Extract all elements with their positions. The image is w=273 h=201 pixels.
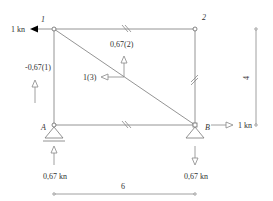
- support-b-icon: [186, 127, 204, 138]
- support-a-icon: [45, 127, 63, 138]
- dimension-height-label: 4: [243, 76, 251, 80]
- applied-force-label: 1 kn: [11, 26, 25, 34]
- node-2: [193, 27, 197, 31]
- member-3-force-label: 1(3): [83, 74, 96, 82]
- member-1-force-arrow-icon: [32, 80, 38, 103]
- reaction-b-label: 0,67 kn: [184, 173, 208, 181]
- member-1-force-label: -0,67(1): [25, 64, 51, 72]
- node-2-label: 2: [202, 14, 206, 22]
- node-1: [52, 27, 56, 31]
- reaction-b-horizontal-label: 1 kn: [238, 122, 252, 130]
- reaction-a-arrow-icon: [51, 146, 57, 165]
- reaction-a-label: 0,67 kn: [43, 173, 67, 181]
- member-2-force-label: 0,67(2): [110, 41, 133, 49]
- member-3-force-arrow-icon: [101, 74, 124, 80]
- reaction-b-arrow-icon: [192, 146, 198, 165]
- tick-marks: [122, 25, 198, 128]
- reaction-b-horizontal-arrow-icon: [211, 122, 233, 128]
- node-a-label: A: [41, 124, 46, 132]
- truss-diagram: [0, 0, 273, 201]
- applied-force-arrow-icon: [30, 26, 52, 33]
- node-b-label: B: [205, 124, 210, 132]
- node-1-label: 1: [41, 16, 45, 24]
- dimension-width-label: 6: [121, 183, 125, 191]
- member-2-force-arrow-icon: [121, 56, 127, 77]
